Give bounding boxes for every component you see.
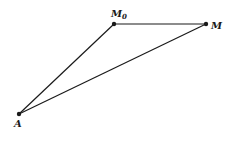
triangle-diagram: M0 M A (0, 0, 232, 141)
point-m0 (112, 22, 116, 26)
point-m (204, 22, 208, 26)
label-m: M (210, 20, 223, 31)
segment-a-m0 (19, 24, 114, 114)
label-a: A (13, 118, 22, 129)
diagram-svg: M0 M A (0, 0, 232, 141)
segment-a-m (19, 24, 206, 114)
point-a (17, 112, 21, 116)
label-m0: M0 (110, 8, 127, 21)
